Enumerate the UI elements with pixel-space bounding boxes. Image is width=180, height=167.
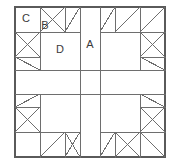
quilt-block-diagram: ABCD [0, 0, 180, 167]
region-label-a: A [86, 38, 94, 50]
region-label-c: C [22, 12, 30, 24]
region-label-d: D [56, 43, 64, 55]
diagram-background [0, 0, 180, 167]
region-label-b: B [41, 19, 48, 31]
geometric-figure-container: ABCD [0, 0, 180, 167]
